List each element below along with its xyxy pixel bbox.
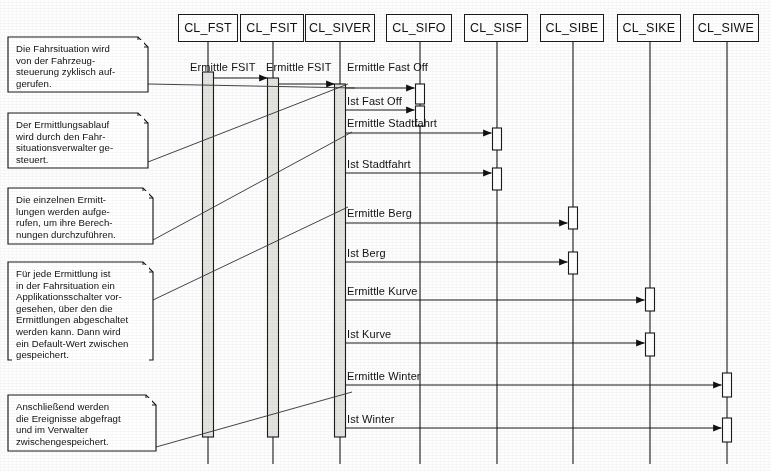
activation-bar-fst (203, 72, 214, 437)
receiver-activation-sisf-2 (493, 128, 502, 150)
receiver-activation-sisf-3 (493, 168, 502, 190)
note-1: Die Fahrsituation wird von der Fahrzeug-… (12, 40, 144, 91)
receiver-activation-sike-6 (646, 288, 655, 311)
receiver-activation-sibe-5 (569, 252, 578, 274)
lifeline-label: CL_SIWE (698, 21, 754, 35)
note-3: Die einzelnen Ermitt- lungen werden aufg… (12, 191, 149, 242)
lifeline-label: CL_SIVER (309, 21, 371, 35)
note-connector-0 (148, 84, 355, 88)
lifeline-header-sike[interactable]: CL_SIKE (617, 14, 681, 42)
note-outlines-group (8, 37, 156, 451)
lifeline-header-fsit[interactable]: CL_FSIT (240, 14, 304, 42)
lifeline-header-sisf[interactable]: CL_SISF (464, 14, 528, 42)
receiver-activation-sifo-0 (416, 84, 425, 104)
receiver-activation-sike-7 (646, 333, 655, 356)
lifeline-label: CL_SIKE (623, 21, 676, 35)
receiver-activation-siwe-9 (723, 418, 732, 442)
message-label-11: Ist Winter (347, 413, 394, 425)
receiver-activation-sibe-4 (569, 207, 578, 229)
lifeline-label: CL_SIFO (392, 21, 446, 35)
activation-bar-fsit (268, 78, 279, 437)
message-label-9: Ist Kurve (347, 328, 391, 340)
lifeline-header-fst[interactable]: CL_FST (178, 14, 238, 42)
note-connectors-group (148, 84, 355, 447)
lifeline-label: CL_FSIT (246, 21, 297, 35)
lifeline-header-siver[interactable]: CL_SIVER (305, 14, 375, 42)
message-label-0: Ermittle FSIT (190, 61, 255, 73)
message-arrows-group (214, 78, 722, 428)
message-label-7: Ist Berg (347, 247, 386, 259)
sequence-diagram-canvas: CL_FSTCL_FSITCL_SIVERCL_SIFOCL_SISFCL_SI… (0, 0, 771, 471)
note-4: Für jede Ermittlung ist in der Fahrsitua… (12, 265, 149, 363)
message-label-4: Ermittle Stadtfahrt (347, 117, 437, 129)
message-label-6: Ermittle Berg (347, 207, 412, 219)
message-label-10: Ermittle Winter (347, 370, 421, 382)
message-label-5: Ist Stadtfahrt (347, 158, 411, 170)
message-label-8: Ermittle Kurve (347, 285, 417, 297)
message-label-3: Ist Fast Off (347, 95, 402, 107)
lifeline-stems-group (208, 42, 727, 464)
lifeline-header-siwe[interactable]: CL_SIWE (693, 14, 759, 42)
message-label-2: Ermittle Fast Off (347, 61, 428, 73)
message-label-1: Ermittle FSIT (266, 61, 331, 73)
lifeline-header-sibe[interactable]: CL_SIBE (540, 14, 604, 42)
lifeline-label: CL_SIBE (546, 21, 599, 35)
note-connector-4 (156, 392, 352, 447)
lifeline-label: CL_FST (184, 21, 232, 35)
lifeline-label: CL_SISF (470, 21, 522, 35)
activation-bars-group (203, 72, 346, 437)
note-2: Der Ermittlungsablauf wird durch den Fah… (12, 116, 144, 167)
note-5: Anschließend werden die Ereignisse abgef… (12, 398, 152, 449)
note-connector-3 (153, 207, 348, 300)
receiver-activation-siwe-8 (723, 373, 732, 397)
lifeline-header-sifo[interactable]: CL_SIFO (386, 14, 452, 42)
